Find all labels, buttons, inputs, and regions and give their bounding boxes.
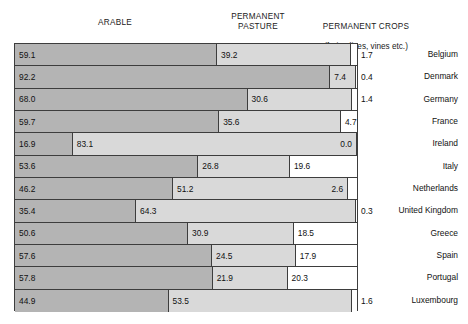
- bar-segment-permanent-crops: 1.4: [352, 89, 357, 110]
- bar-segment-arable: 35.4: [15, 200, 136, 221]
- bar-row: 57.821.920.3: [15, 267, 357, 289]
- bar-segment-permanent-pasture: 64.3: [136, 200, 356, 221]
- bar-row: 50.630.918.5: [15, 223, 357, 245]
- country-label: Italy: [358, 155, 464, 177]
- segment-value-label: 30.6: [252, 94, 268, 104]
- bar-segment-permanent-pasture: 53.5: [169, 290, 352, 312]
- segment-value-label: 68.0: [19, 94, 35, 104]
- segment-value-label: 57.8: [19, 273, 35, 283]
- bar-row: 46.251.22.6: [15, 178, 357, 200]
- land-use-stacked-bar-chart: ARABLE PERMANENT PASTURE PERMANENT CROPS…: [0, 0, 468, 324]
- bar-segment-permanent-crops: 0.4: [356, 66, 357, 87]
- bar-segment-arable: 59.7: [15, 111, 219, 132]
- bar-segment-permanent-pasture: 83.10.0: [73, 133, 357, 154]
- segment-value-label: 35.4: [19, 206, 35, 216]
- column-header-permanent-crops-title: PERMANENT CROPS: [300, 22, 432, 32]
- country-label: France: [358, 110, 464, 132]
- segment-value-label: 64.3: [140, 206, 156, 216]
- country-label: Netherlands: [358, 177, 464, 199]
- segment-value-label: 18.5: [298, 228, 314, 238]
- bar-segment-permanent-pasture: 24.5: [212, 245, 296, 266]
- segment-value-label: 17.9: [300, 251, 316, 261]
- country-label: Belgium: [358, 43, 464, 65]
- segment-value-label: 16.9: [19, 139, 35, 149]
- bar-segment-arable: 59.1: [15, 44, 217, 65]
- segment-value-label: 57.6: [19, 251, 35, 261]
- segment-value-label: 59.1: [19, 50, 35, 60]
- bar-row: 53.626.819.6: [15, 156, 357, 178]
- segment-value-label: 44.9: [19, 296, 35, 306]
- bar-row: 57.624.517.9: [15, 245, 357, 267]
- segment-value-label: 19.6: [294, 161, 310, 171]
- bar-row: 59.139.21.7: [15, 44, 357, 66]
- segment-value-label: 24.5: [216, 251, 232, 261]
- bar-segment-permanent-pasture: 35.6: [219, 111, 341, 132]
- bar-segment-arable: 57.8: [15, 267, 213, 288]
- country-label-column: BelgiumDenmarkGermanyFranceIrelandItalyN…: [358, 43, 464, 311]
- bar-row: 35.464.30.3: [15, 200, 357, 222]
- segment-value-label: 92.2: [19, 72, 35, 82]
- segment-value-label: 2.6: [331, 184, 343, 194]
- country-label: Greece: [358, 222, 464, 244]
- segment-value-label: 83.1: [77, 139, 93, 149]
- column-header-permanent-pasture: PERMANENT PASTURE: [208, 12, 308, 32]
- bar-row: 92.27.40.4: [15, 66, 357, 88]
- bar-segment-arable: 57.6: [15, 245, 212, 266]
- bar-segment-permanent-crops: 0.3: [356, 200, 357, 221]
- segment-value-label: 21.9: [217, 273, 233, 283]
- segment-value-label: 53.6: [19, 161, 35, 171]
- segment-value-label: 26.8: [202, 161, 218, 171]
- plot-area: 59.139.21.792.27.40.468.030.61.459.735.6…: [14, 43, 358, 311]
- segment-value-label: 0.0: [340, 139, 352, 149]
- country-label: Germany: [358, 88, 464, 110]
- bar-segment-arable: 68.0: [15, 89, 248, 110]
- bar-segment-permanent-pasture: 39.2: [217, 44, 351, 65]
- column-header-arable: ARABLE: [55, 18, 175, 28]
- bar-segment-arable: 44.9: [15, 290, 169, 312]
- bar-row: 16.983.10.0: [15, 133, 357, 155]
- segment-value-label: 7.4: [334, 72, 346, 82]
- bar-row: 59.735.64.7: [15, 111, 357, 133]
- bar-segment-permanent-crops: 19.6: [290, 156, 357, 177]
- bar-segment-permanent-pasture: 21.9: [213, 267, 288, 288]
- bar-segment-arable: 50.6: [15, 223, 188, 244]
- bar-row: 68.030.61.4: [15, 89, 357, 111]
- country-label: Portugal: [358, 266, 464, 288]
- bar-segment-arable: 92.2: [15, 66, 330, 87]
- bar-segment-permanent-crops: [348, 178, 357, 199]
- bar-segment-permanent-crops: 18.5: [294, 223, 357, 244]
- country-label: United Kingdom: [358, 199, 464, 221]
- bar-segment-permanent-pasture: 51.22.6: [173, 178, 348, 199]
- bar-segment-permanent-pasture: 26.8: [198, 156, 290, 177]
- bar-segment-permanent-crops: 4.7: [341, 111, 357, 132]
- bar-segment-permanent-crops: 1.7: [351, 44, 357, 65]
- bar-segment-arable: 46.2: [15, 178, 173, 199]
- bar-segment-arable: 53.6: [15, 156, 198, 177]
- bar-segment-arable: 16.9: [15, 133, 73, 154]
- bar-segment-permanent-pasture: 30.6: [248, 89, 353, 110]
- segment-value-label: 51.2: [177, 184, 193, 194]
- bar-segment-permanent-pasture: 7.4: [330, 66, 355, 87]
- segment-value-label: 59.7: [19, 117, 35, 127]
- country-label: Ireland: [358, 132, 464, 154]
- bar-segment-permanent-crops: 1.6: [352, 290, 357, 312]
- segment-value-label: 20.3: [292, 273, 308, 283]
- bar-segment-permanent-crops: 17.9: [296, 245, 357, 266]
- segment-value-label: 50.6: [19, 228, 35, 238]
- bar-row: 44.953.51.6: [15, 290, 357, 312]
- bar-segment-permanent-pasture: 30.9: [188, 223, 294, 244]
- country-label: Spain: [358, 244, 464, 266]
- segment-value-label: 39.2: [221, 50, 237, 60]
- bar-segment-permanent-crops: 20.3: [288, 267, 357, 288]
- segment-value-label: 35.6: [223, 117, 239, 127]
- segment-value-label: 53.5: [173, 296, 189, 306]
- segment-value-label: 46.2: [19, 184, 35, 194]
- segment-value-label: 30.9: [192, 228, 208, 238]
- country-label: Denmark: [358, 65, 464, 87]
- country-label: Luxembourg: [358, 289, 464, 311]
- segment-value-label: 4.7: [345, 117, 357, 127]
